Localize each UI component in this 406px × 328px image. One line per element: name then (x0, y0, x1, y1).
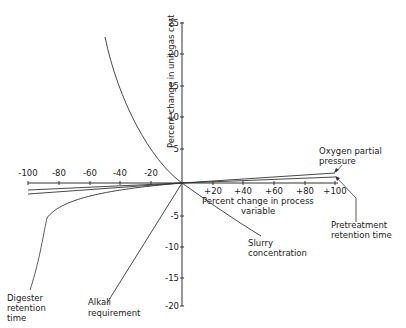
svg-text:-60: -60 (83, 168, 97, 178)
sensitivity-chart: -100 -80 -60 -40 -20 +20 +40 +60 +80 +10… (0, 0, 406, 328)
digester-label-line3: time (7, 313, 26, 323)
svg-text:-20: -20 (165, 301, 179, 311)
svg-text:+80: +80 (296, 186, 314, 196)
pretreatment-leader (336, 177, 356, 222)
y-axis-title: Percent change in unit gas cost (166, 14, 176, 148)
svg-text:+100: +100 (323, 186, 346, 196)
x-axis-title-line2: variable (241, 206, 275, 216)
digester-label-line2: retention (7, 303, 46, 313)
svg-text:-40: -40 (113, 168, 127, 178)
svg-text:-10: -10 (165, 242, 179, 252)
oxygen-label-line1: Oxygen partial (319, 146, 382, 156)
svg-text:-100: -100 (18, 168, 37, 178)
digester-label-line1: Digester (7, 293, 44, 303)
svg-text:+40: +40 (234, 186, 252, 196)
x-axis-title-line1: Percent change in process (202, 196, 314, 206)
pretreatment-label-line2: retention time (331, 230, 392, 240)
oxygen-arrow-icon (334, 168, 339, 173)
x-tick-labels: -100 -80 -60 -40 -20 +20 +40 +60 +80 +10… (18, 168, 346, 196)
alkali-label-line2: requirement (88, 308, 141, 318)
slurry-label-line2: concentration (248, 248, 307, 258)
oxygen-label-line2: pressure (319, 156, 356, 166)
svg-text:+60: +60 (265, 186, 283, 196)
digester-leader (30, 218, 47, 290)
svg-text:-20: -20 (144, 168, 158, 178)
svg-text:-15: -15 (165, 273, 179, 283)
pretreatment-label-line1: Pretreatment (331, 220, 388, 230)
svg-text:+20: +20 (204, 186, 222, 196)
slurry-label-line1: Slurry (248, 238, 273, 248)
svg-text:-80: -80 (52, 168, 66, 178)
svg-text:-5: -5 (171, 211, 179, 221)
alkali-label-line1: Alkali (88, 297, 111, 307)
series-slurry-concentration (105, 37, 261, 236)
